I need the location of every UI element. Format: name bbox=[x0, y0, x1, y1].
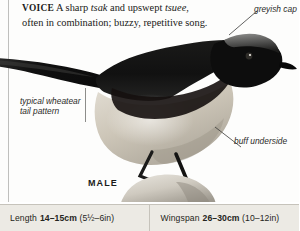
annotation-buff-underside: buff underside bbox=[234, 136, 294, 146]
measurement-wingspan: Wingspan 26–30cm (10–12in) bbox=[149, 205, 300, 231]
bird-eye bbox=[246, 53, 253, 60]
annotation-tail-pattern: typical wheatear tail pattern bbox=[20, 96, 82, 116]
caption-male: MALE bbox=[88, 178, 118, 188]
measurement-wingspan-imperial: (10–12in) bbox=[242, 213, 279, 223]
field-guide-page: VOICE A sharp tsak and upswept tsuee, of… bbox=[0, 0, 299, 231]
measurement-length-metric: 14–15cm bbox=[40, 213, 77, 223]
measurement-bar: Length 14–15cm (5½–6in) Wingspan 26–30cm… bbox=[0, 204, 299, 231]
measurement-wingspan-metric: 26–30cm bbox=[203, 213, 240, 223]
bird-eye-highlight bbox=[249, 54, 251, 56]
measurement-length-imperial: (5½–6in) bbox=[79, 213, 114, 223]
measurement-length-label: Length bbox=[10, 213, 37, 223]
measurement-wingspan-label: Wingspan bbox=[161, 213, 200, 223]
annotation-greyish-cap: greyish cap bbox=[254, 4, 298, 14]
bird-bill bbox=[279, 62, 297, 69]
measurement-length: Length 14–15cm (5½–6in) bbox=[0, 205, 149, 231]
leader-line-tail bbox=[85, 88, 86, 122]
